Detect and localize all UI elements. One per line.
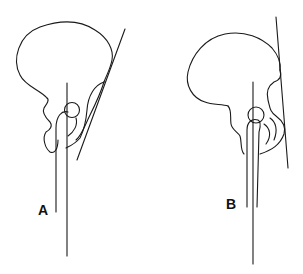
panel-a-tangent-line [77,29,125,160]
pelvis-diagram [0,0,303,274]
panel-a-label: A [38,203,48,217]
panel-a-femur-neck [56,112,68,212]
panel-b-iliac-outline [187,33,280,106]
panel-a-ischium [76,82,104,140]
panel-a-inner-curve [68,118,77,136]
panel-b-inner-curves [264,118,276,144]
panel-b-sciatic-notch [228,106,244,154]
panel-a-drawing [17,22,125,256]
panel-b-femur-neck [247,119,260,207]
panel-a-iliac-outline [17,22,113,98]
panel-b-tangent-line [276,17,288,168]
panel-b-label: B [226,197,236,211]
panel-b-drawing [187,17,288,264]
